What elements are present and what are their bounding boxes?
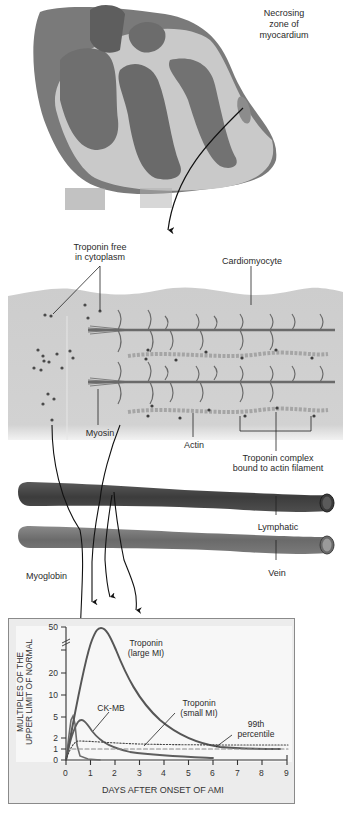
x-tick-5: 5: [186, 768, 191, 778]
chart-series: [66, 628, 288, 760]
y-tick-20: 20: [44, 668, 58, 678]
annotation-ckmb: CK-MB: [94, 703, 128, 713]
y-tick-10: 10: [44, 690, 58, 700]
y-tick-2: 2: [44, 733, 58, 743]
x-axis-title: DAYS AFTER ONSET OF AMI: [102, 785, 224, 795]
x-tick-4: 4: [161, 768, 166, 778]
annotation-99th-line-1: 99th: [230, 719, 282, 729]
annotation-troponin-small-line-1: Troponin: [175, 698, 223, 708]
x-tick-8: 8: [259, 768, 264, 778]
x-tick-7: 7: [235, 768, 240, 778]
annotation-troponin-small: Troponin (small MI): [175, 698, 223, 718]
y-axis-title-line-2: UPPER LIMIT OF NORMAL: [25, 627, 34, 757]
series-troponin-large: [66, 628, 280, 760]
x-tick-1: 1: [88, 768, 93, 778]
annotation-99th-percentile: 99th percentile: [230, 719, 282, 739]
y-tick-1: 1: [44, 744, 58, 754]
y-tick-50: 50: [44, 622, 58, 632]
x-tick-2: 2: [112, 768, 117, 778]
annotation-troponin-large: Troponin (large MI): [122, 638, 170, 658]
annotation-troponin-large-line-2: (large MI): [122, 648, 170, 658]
x-tick-3: 3: [137, 768, 142, 778]
y-tick-5: 5: [44, 712, 58, 722]
x-tick-9: 9: [284, 768, 289, 778]
annotation-troponin-small-line-2: (small MI): [175, 708, 223, 718]
x-tick-6: 6: [210, 768, 215, 778]
annotation-troponin-large-line-1: Troponin: [122, 638, 170, 648]
y-tick-0: 0: [44, 755, 58, 765]
series-troponin-small: [66, 741, 288, 760]
x-tick-0: 0: [63, 768, 68, 778]
annotation-99th-line-2: percentile: [230, 729, 282, 739]
y-axis-title: MULTIPLES OF THE UPPER LIMIT OF NORMAL: [16, 627, 34, 757]
